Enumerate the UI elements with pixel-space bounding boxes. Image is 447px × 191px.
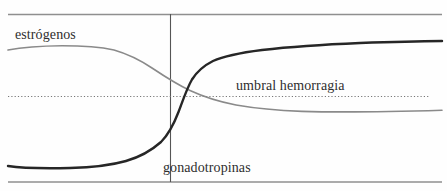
gonadotropinas-curve (8, 41, 442, 168)
curve-label-gonadotropinas: gonadotropinas (163, 161, 251, 175)
chart-figure: estrógenos umbral hemorragia gonadotropi… (0, 0, 447, 191)
curve-label-umbral-hemorragia: umbral hemorragia (236, 79, 345, 93)
curve-label-estrogenos: estrógenos (15, 28, 76, 42)
